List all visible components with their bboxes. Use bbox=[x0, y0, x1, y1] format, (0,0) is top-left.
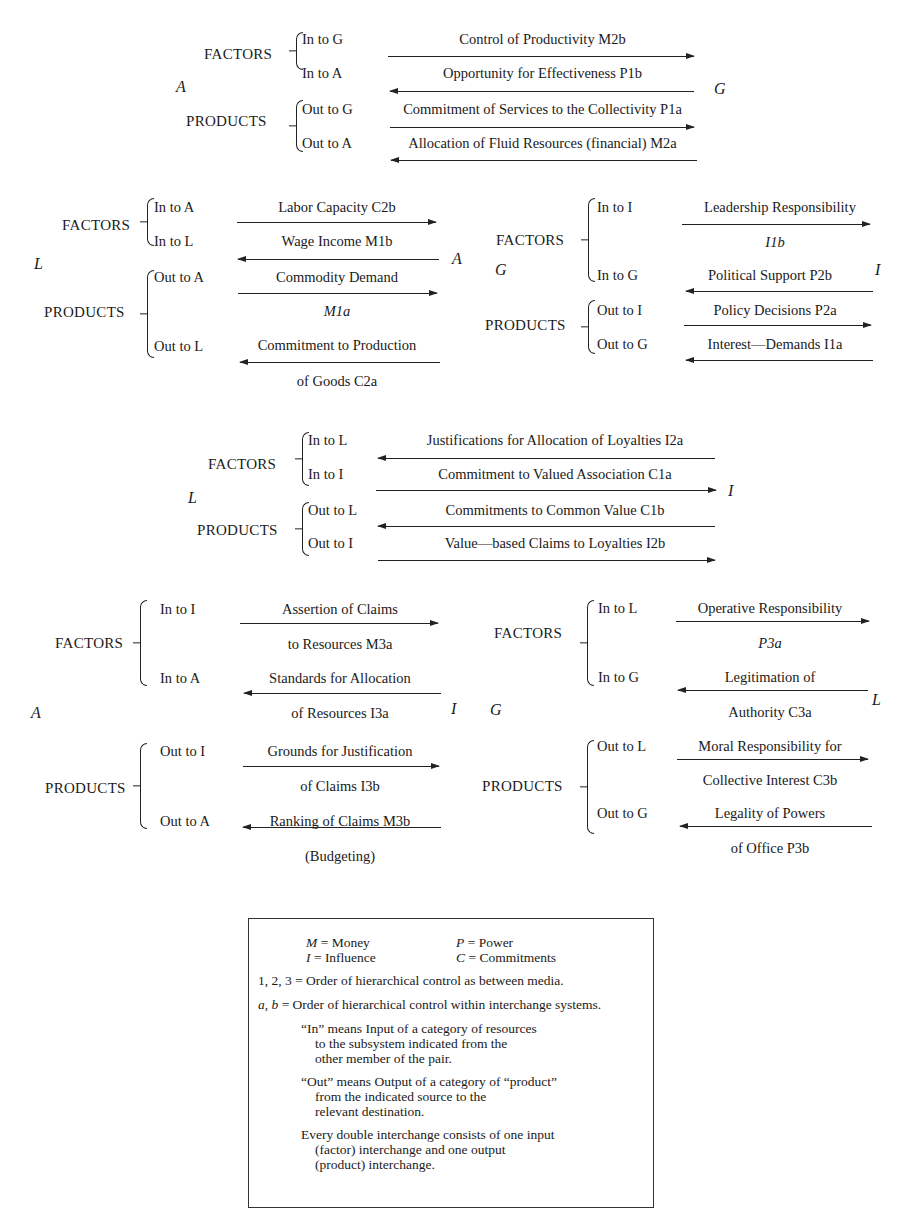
factors-label: FACTORS bbox=[494, 625, 562, 642]
factors-brace bbox=[587, 600, 594, 686]
direction-label: In to I bbox=[597, 199, 632, 216]
direction-label: In to A bbox=[154, 199, 194, 216]
direction-label: Out to I bbox=[160, 743, 205, 760]
interchange-text: Collective Interest C3b bbox=[675, 772, 865, 789]
legend-double-def: Every double interchange consists of one… bbox=[301, 1127, 554, 1143]
interchange-text: Commitments to Common Value C1b bbox=[390, 502, 720, 519]
interchange-code: P3a bbox=[675, 635, 865, 652]
factors-brace bbox=[588, 198, 595, 282]
products-label: PRODUCTS bbox=[197, 522, 278, 539]
direction-label: In to A bbox=[160, 670, 200, 687]
node-left: G bbox=[495, 261, 507, 279]
interchange-text: Legitimation of bbox=[675, 669, 865, 686]
arrow-left-icon bbox=[686, 360, 873, 361]
products-label: PRODUCTS bbox=[45, 780, 126, 797]
node-right: I bbox=[728, 482, 733, 500]
interchange-text: Value—based Claims to Loyalties I2b bbox=[390, 535, 720, 552]
node-left: A bbox=[31, 704, 41, 722]
direction-label: In to G bbox=[302, 31, 343, 48]
arrow-left-icon bbox=[678, 690, 868, 691]
arrow-right-icon bbox=[237, 222, 436, 223]
direction-label: In to G bbox=[597, 267, 638, 284]
interchange-text: Commodity Demand bbox=[237, 269, 437, 286]
arrow-right-icon bbox=[682, 224, 870, 225]
node-right: A bbox=[452, 250, 462, 268]
legend-media-money: M = Money bbox=[306, 935, 370, 951]
legend-order-within: a, b = Order of hierarchical control wit… bbox=[258, 997, 601, 1013]
interchange-text: Labor Capacity C2b bbox=[237, 199, 437, 216]
interchange-text: Interest—Demands I1a bbox=[680, 336, 870, 353]
arrow-left-icon bbox=[240, 362, 440, 363]
node-right: I bbox=[451, 700, 456, 718]
products-label: PRODUCTS bbox=[44, 304, 125, 321]
arrow-right-icon bbox=[238, 293, 437, 294]
direction-label: Out to A bbox=[154, 269, 204, 286]
direction-label: In to L bbox=[308, 432, 347, 449]
node-left: A bbox=[176, 78, 186, 96]
interchange-text: Authority C3a bbox=[675, 704, 865, 721]
arrow-left-icon bbox=[391, 160, 697, 161]
interchange-text: to Resources M3a bbox=[240, 636, 440, 653]
node-left: L bbox=[188, 489, 197, 507]
interchange-text: Policy Decisions P2a bbox=[680, 302, 870, 319]
interchange-text: of Claims I3b bbox=[240, 778, 440, 795]
arrow-left-icon bbox=[244, 693, 441, 694]
legend-order-media: 1, 2, 3 = Order of hierarchical control … bbox=[258, 973, 564, 989]
direction-label: In to A bbox=[302, 65, 342, 82]
factors-brace bbox=[140, 600, 147, 686]
node-left: L bbox=[34, 255, 43, 273]
arrow-left-icon bbox=[378, 526, 715, 527]
node-right: I bbox=[875, 261, 880, 279]
direction-label: Out to G bbox=[597, 336, 648, 353]
products-brace bbox=[587, 740, 594, 834]
node-left: G bbox=[490, 701, 502, 719]
arrow-right-icon bbox=[684, 325, 871, 326]
interchange-text: Grounds for Justification bbox=[240, 743, 440, 760]
interchange-text: (Budgeting) bbox=[240, 848, 440, 865]
interchange-text: Commitment to Valued Association C1a bbox=[390, 466, 720, 483]
factors-label: FACTORS bbox=[496, 232, 564, 249]
direction-label: Out to L bbox=[597, 738, 646, 755]
factors-brace bbox=[147, 198, 154, 246]
interchange-text: Allocation of Fluid Resources (financial… bbox=[380, 135, 705, 152]
interchange-text: Commitment to Production bbox=[237, 337, 437, 354]
direction-label: In to L bbox=[598, 600, 637, 617]
interchange-text: Opportunity for Effectiveness P1b bbox=[385, 65, 700, 82]
direction-label: In to I bbox=[160, 601, 195, 618]
interchange-text: Assertion of Claims bbox=[240, 601, 440, 618]
arrow-left-icon bbox=[243, 827, 441, 828]
products-label: PRODUCTS bbox=[186, 113, 267, 130]
factors-label: FACTORS bbox=[55, 635, 123, 652]
legend-media-influence: I = Influence bbox=[306, 950, 376, 966]
legend-double-def: (factor) interchange and one output bbox=[315, 1142, 505, 1158]
interchange-code: M1a bbox=[237, 303, 437, 320]
interchange-text: Political Support P2b bbox=[680, 267, 860, 284]
arrow-left-icon bbox=[378, 458, 715, 459]
interchange-text: Leadership Responsibility bbox=[680, 199, 880, 216]
arrow-right-icon bbox=[376, 490, 716, 491]
products-label: PRODUCTS bbox=[485, 317, 566, 334]
products-label: PRODUCTS bbox=[482, 778, 563, 795]
legend-in-def: to the subsystem indicated from the bbox=[315, 1036, 507, 1052]
direction-label: Out to L bbox=[154, 338, 203, 355]
interchange-text: of Goods C2a bbox=[237, 373, 437, 390]
products-brace bbox=[147, 270, 154, 358]
interchange-text: of Office P3b bbox=[675, 840, 865, 857]
arrow-right-icon bbox=[388, 56, 694, 57]
arrow-left-icon bbox=[238, 259, 439, 260]
legend-box: M = Money P = Power I = Influence C = Co… bbox=[248, 918, 654, 1208]
arrow-right-icon bbox=[390, 127, 694, 128]
legend-in-def: “In” means Input of a category of resour… bbox=[301, 1021, 537, 1037]
products-brace bbox=[588, 300, 595, 354]
direction-label: Out to G bbox=[597, 805, 648, 822]
interchange-text: Moral Responsibility for bbox=[675, 738, 865, 755]
factors-label: FACTORS bbox=[208, 456, 276, 473]
arrow-left-icon bbox=[686, 291, 873, 292]
arrow-right-icon bbox=[240, 623, 438, 624]
interchange-text: Control of Productivity M2b bbox=[385, 31, 700, 48]
interchange-text: Wage Income M1b bbox=[237, 233, 437, 250]
interchange-text: Standards for Allocation bbox=[240, 670, 440, 687]
arrow-right-icon bbox=[378, 560, 715, 561]
interchange-text: Commitment of Services to the Collectivi… bbox=[380, 101, 705, 118]
interchange-code: I1b bbox=[680, 234, 870, 251]
